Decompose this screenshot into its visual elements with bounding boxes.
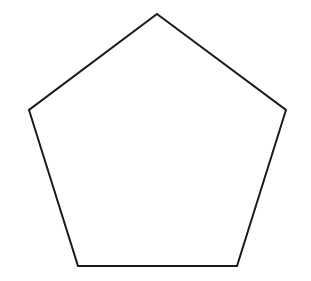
- pentagon-figure: [0, 0, 311, 281]
- diagram-canvas: [0, 0, 311, 281]
- pentagon-shape: [29, 14, 286, 266]
